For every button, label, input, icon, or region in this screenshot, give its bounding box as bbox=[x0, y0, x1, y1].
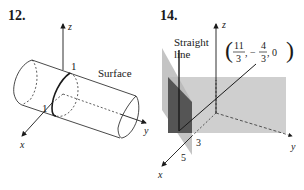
z-label: z bbox=[67, 21, 72, 32]
x-label: x bbox=[19, 139, 25, 150]
svg-text:(: ( bbox=[225, 37, 233, 63]
z-label: z bbox=[221, 19, 226, 30]
y-axis bbox=[120, 114, 146, 123]
svg-text:4: 4 bbox=[261, 40, 266, 51]
x-axis bbox=[22, 103, 52, 136]
svg-text:, 0: , 0 bbox=[267, 47, 277, 58]
svg-text:3: 3 bbox=[261, 53, 266, 64]
x-label: x bbox=[157, 169, 163, 180]
cylinder-diagram: z y x 1 1 Surface bbox=[0, 0, 152, 190]
radius-label-top: 1 bbox=[71, 60, 77, 72]
surface-label: Surface bbox=[98, 67, 132, 79]
x-axis bbox=[162, 136, 192, 166]
straight-label: Straight bbox=[174, 36, 209, 48]
planes-diagram: z y x Straight line 3 5 ( 11 3 , − 4 3 ,… bbox=[152, 0, 304, 190]
y-label: y bbox=[290, 141, 296, 152]
figure-12: 12. z y x 1 1 Surface bbox=[0, 0, 152, 190]
tick-3: 3 bbox=[196, 137, 201, 148]
figure-14: 14. z y x Straight line 3 5 ( bbox=[152, 0, 304, 190]
point-label: ( 11 3 , − 4 3 , 0 ) bbox=[225, 37, 294, 64]
radius-label-left: 1 bbox=[42, 102, 48, 114]
svg-text:11: 11 bbox=[234, 40, 244, 51]
svg-text:3: 3 bbox=[236, 53, 241, 64]
svg-text:, −: , − bbox=[245, 47, 256, 58]
tick-5: 5 bbox=[181, 152, 186, 163]
svg-text:): ) bbox=[286, 37, 294, 63]
line-label: line bbox=[174, 48, 191, 60]
y-label: y bbox=[143, 125, 149, 136]
